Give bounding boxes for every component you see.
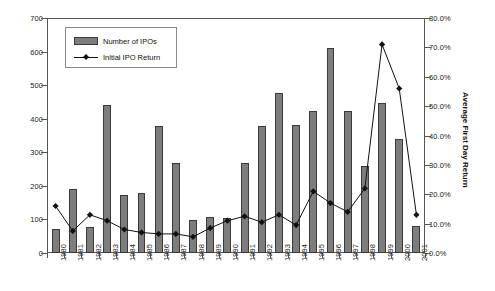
x-label-1981: 1981 [76, 244, 85, 261]
right-tickmark [425, 47, 431, 48]
x-label-1994: 1994 [300, 244, 309, 261]
x-label-1996: 1996 [334, 244, 343, 261]
x-label-2000: 2000 [403, 244, 412, 261]
right-axis-title: Average First Day Return [461, 92, 470, 188]
bar-1982 [86, 227, 94, 253]
left-tickmark [41, 52, 47, 53]
right-tickmark [425, 136, 431, 137]
left-tickmark [41, 18, 47, 19]
x-label-1997: 1997 [351, 244, 360, 261]
bar-1999 [378, 103, 386, 253]
bar-1992 [258, 126, 266, 253]
line-diamond-icon [74, 53, 98, 61]
left-tickmark [41, 152, 47, 153]
bar-1983 [103, 105, 111, 253]
x-tickmark [47, 253, 48, 258]
bar-1997 [344, 111, 352, 253]
left-value-axis: 0100200300400500600700 [0, 0, 43, 291]
x-label-1983: 1983 [111, 244, 120, 261]
bar-1991 [241, 163, 249, 253]
right-tick-label: 10.0% [429, 219, 451, 228]
right-tickmark [425, 18, 431, 19]
x-label-1987: 1987 [179, 244, 188, 261]
bar-1989 [206, 217, 214, 253]
right-tick-label: 20.0% [429, 190, 451, 199]
x-label-1989: 1989 [214, 244, 223, 261]
legend-item-line: Initial IPO Return [74, 51, 160, 63]
bar-1995 [309, 111, 317, 253]
x-label-1995: 1995 [317, 244, 326, 261]
right-tickmark [425, 77, 431, 78]
x-label-2001: 2001 [420, 244, 429, 261]
right-tickmark [425, 106, 431, 107]
chart-legend: Number of IPOs Initial IPO Return [65, 27, 177, 68]
x-label-1985: 1985 [145, 244, 154, 261]
right-tick-label: 30.0% [429, 160, 451, 169]
x-label-1980: 1980 [59, 244, 68, 261]
bar-1994 [292, 125, 300, 253]
ipo-chart: 0100200300400500600700 0.0%10.0%20.0%30.… [0, 0, 495, 291]
x-label-1993: 1993 [283, 244, 292, 261]
legend-item-bars: Number of IPOs [74, 35, 157, 47]
x-label-1990: 1990 [231, 244, 240, 261]
x-label-1991: 1991 [248, 244, 257, 261]
legend-label-line: Initial IPO Return [103, 53, 160, 62]
bar-2000 [395, 139, 403, 253]
left-tickmark [41, 186, 47, 187]
left-tickmark [41, 219, 47, 220]
right-tick-label: 40.0% [429, 131, 451, 140]
right-tick-label: 80.0% [429, 14, 451, 23]
bar-1993 [275, 93, 283, 253]
bar-1987 [172, 163, 180, 253]
right-tickmark [425, 194, 431, 195]
right-tick-label: 60.0% [429, 72, 451, 81]
right-tick-label: 70.0% [429, 43, 451, 52]
x-label-1999: 1999 [386, 244, 395, 261]
x-label-1988: 1988 [197, 244, 206, 261]
left-tickmark [41, 119, 47, 120]
bar-1988 [189, 220, 197, 253]
right-tick-label: 50.0% [429, 102, 451, 111]
x-label-1986: 1986 [162, 244, 171, 261]
right-tick-label: 0.0% [429, 249, 447, 258]
bar-swatch-icon [74, 37, 98, 45]
bar-1996 [327, 48, 335, 253]
x-label-1992: 1992 [265, 244, 274, 261]
x-label-1998: 1998 [368, 244, 377, 261]
legend-label-bars: Number of IPOs [103, 37, 157, 46]
bar-1986 [155, 126, 163, 253]
x-label-1982: 1982 [94, 244, 103, 261]
bar-1998 [361, 166, 369, 253]
x-label-1984: 1984 [128, 244, 137, 261]
left-tickmark [41, 85, 47, 86]
right-percent-axis: 0.0%10.0%20.0%30.0%40.0%50.0%60.0%70.0%8… [429, 0, 479, 291]
right-tickmark [425, 165, 431, 166]
right-tickmark [425, 224, 431, 225]
